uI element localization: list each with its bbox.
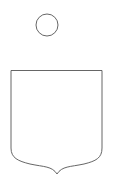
shield-shape — [11, 71, 102, 175]
circle-shape — [36, 14, 58, 36]
figure-canvas — [0, 0, 127, 181]
